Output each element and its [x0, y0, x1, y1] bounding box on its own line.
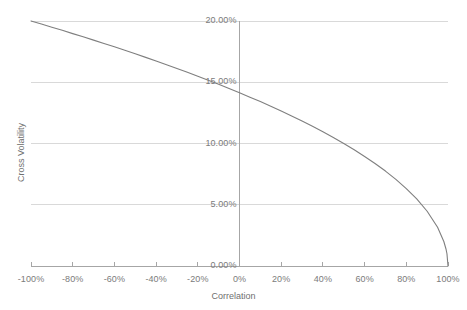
y-tick-label: 10.00%: [177, 138, 237, 149]
x-tick-label: -80%: [50, 274, 96, 285]
x-tick-label: 40%: [300, 274, 346, 285]
x-tick-label: 0%: [217, 274, 263, 285]
x-axis-title: Correlation: [0, 291, 467, 302]
x-tick-label: -100%: [8, 274, 54, 285]
y-axis-title: Cross Volatility: [16, 123, 27, 182]
x-tick-label: 100%: [425, 274, 467, 285]
y-tick-label: 5.00%: [177, 199, 237, 210]
x-tick-label: -20%: [175, 274, 221, 285]
chart-container: 0.00% 5.00% 10.00% 15.00% 20.00% -100% -…: [0, 0, 467, 310]
x-tick-label: 80%: [383, 274, 429, 285]
x-tick-marks-group: [31, 262, 448, 266]
y-tick-label: 15.00%: [177, 76, 237, 87]
x-tick-label: 20%: [258, 274, 304, 285]
y-tick-label: 0.00%: [177, 260, 237, 271]
x-tick-label: -60%: [91, 274, 137, 285]
x-tick-label: -40%: [133, 274, 179, 285]
x-tick-label: 60%: [342, 274, 388, 285]
y-tick-label: 20.00%: [177, 15, 237, 26]
